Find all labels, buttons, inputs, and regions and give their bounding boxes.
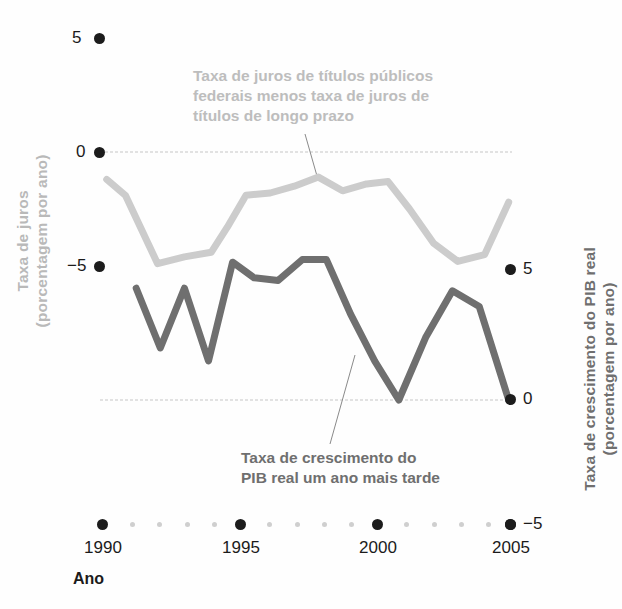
leader-line-spread — [305, 134, 317, 176]
x-axis-label-1990: 1990 — [73, 538, 133, 558]
x-axis-tick-dot-2002 — [432, 522, 437, 527]
series-line-gdp — [136, 260, 509, 400]
x-axis-title: Ano — [73, 570, 104, 588]
annotation-gdp-line1: Taxa de crescimento do — [241, 448, 440, 468]
x-axis-label-2000: 2000 — [348, 538, 408, 558]
x-axis-tick-dot-1992 — [157, 522, 162, 527]
right-axis-title-line1: Taxa de crescimento do PIB real — [581, 247, 598, 491]
left-axis-tick-0: 0 — [76, 142, 85, 162]
right-axis-tick-dot-0 — [505, 394, 516, 405]
left-axis-tick-dot-minus5 — [94, 261, 105, 272]
annotation-spread: Taxa de juros de títulos públicos federa… — [193, 66, 433, 126]
x-axis-tick-dot-1995 — [235, 519, 246, 530]
left-axis-title-line1: Taxa de juros — [14, 190, 31, 291]
left-axis-tick-dot-5 — [94, 33, 105, 44]
right-axis-tick-dot-5 — [505, 264, 516, 275]
left-axis-tick-5: 5 — [72, 28, 81, 48]
left-axis-tick-minus5: −5 — [67, 256, 86, 276]
x-axis-tick-dot-1998 — [322, 522, 327, 527]
x-axis-tick-dot-2001 — [404, 522, 409, 527]
right-axis-title-line2: (porcentagem por ano) — [600, 204, 619, 534]
right-axis-title: Taxa de crescimento do PIB real (porcent… — [581, 204, 619, 534]
x-axis-tick-dot-2004 — [486, 522, 491, 527]
left-axis-tick-dot-0 — [94, 147, 105, 158]
x-axis-tick-dot-1999 — [349, 522, 354, 527]
left-axis-title-line2: (porcentagem por ano) — [33, 126, 52, 356]
x-axis-tick-dot-1994 — [212, 522, 217, 527]
x-axis-tick-dot-1993 — [185, 522, 190, 527]
annotation-gdp: Taxa de crescimento do PIB real um ano m… — [241, 448, 440, 488]
x-axis-tick-dot-2000 — [372, 519, 383, 530]
annotation-spread-line2: federais menos taxa de juros de — [193, 86, 433, 106]
x-axis-tick-dot-1997 — [295, 522, 300, 527]
x-axis-tick-dot-2005 — [505, 519, 516, 530]
x-axis-tick-dot-2003 — [459, 522, 464, 527]
right-axis-tick-0: 0 — [523, 389, 532, 409]
right-axis-tick-minus5: −5 — [523, 514, 542, 534]
annotation-spread-line1: Taxa de juros de títulos públicos — [193, 66, 433, 86]
x-axis-tick-dot-1996 — [267, 522, 272, 527]
annotation-gdp-line2: PIB real um ano mais tarde — [241, 468, 440, 488]
x-axis-tick-dot-1991 — [130, 522, 135, 527]
x-axis-label-1995: 1995 — [211, 538, 271, 558]
chart-canvas: Taxa de juros (porcentagem por ano) 5 0 … — [0, 0, 622, 609]
right-axis-tick-5: 5 — [523, 259, 532, 279]
series-line-spread — [107, 177, 509, 264]
x-axis-tick-dot-1990 — [97, 519, 108, 530]
annotation-spread-line3: títulos de longo prazo — [193, 106, 433, 126]
x-axis-label-2005: 2005 — [481, 538, 541, 558]
left-axis-title: Taxa de juros (porcentagem por ano) — [14, 126, 52, 356]
